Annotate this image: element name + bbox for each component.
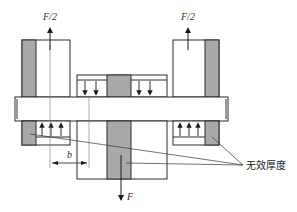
bottom-central-block — [77, 121, 167, 179]
left-top-block — [22, 40, 70, 97]
bar-right-edge-shade — [225, 99, 228, 119]
force-label-left-top: F/2 — [42, 11, 57, 22]
right-bottom-block — [173, 121, 219, 145]
left-bottom-block — [22, 121, 70, 145]
middle-top-plate — [77, 75, 167, 97]
right-top-block — [173, 40, 219, 97]
horizontal-bar — [15, 97, 228, 121]
dimension-b-label: b — [67, 149, 72, 160]
right-top-shaded-strip — [205, 40, 219, 97]
bottom-central-shaded-core — [107, 121, 131, 179]
force-label-bottom: F — [126, 191, 134, 202]
force-label-right-top: F/2 — [180, 11, 195, 22]
bar-left-edge-shade — [15, 99, 18, 119]
ineffective-thickness-label: 无效厚度 — [246, 159, 286, 171]
left-top-shaded-strip — [22, 40, 36, 97]
middle-top-shaded-core — [107, 75, 131, 97]
left-bottom-shaded-strip — [22, 121, 36, 145]
dimension-b — [52, 161, 87, 165]
connection-diagram: F/2 F/2 F b 无效厚度 — [0, 0, 297, 212]
